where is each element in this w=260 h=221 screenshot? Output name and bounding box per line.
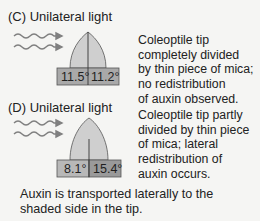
description-line: auxin occurs. (138, 167, 249, 182)
panel-c: (C) Unilateral light 11.5° 11.2° Coleopt… (0, 0, 260, 104)
panel-d-description: Coleoptile tip partly divided by thin pi… (138, 108, 249, 182)
summary-caption: Auxin is transported laterally to the sh… (20, 187, 213, 217)
description-line: no redistribution (138, 77, 254, 92)
description-line: completely divided (138, 48, 254, 63)
summary-line: shaded side in the tip. (20, 202, 213, 217)
description-line: of mica; lateral (138, 137, 249, 152)
block-left-value: 11.5° (61, 70, 89, 84)
description-line: Coleoptile tip partly (138, 108, 249, 123)
description-line: Coleoptile tip (138, 33, 254, 48)
description-line: redistribution of (138, 152, 249, 167)
description-line: divided by thin piece (138, 123, 249, 138)
light-rays-icon (14, 120, 62, 137)
block-right-value: 11.2° (91, 70, 119, 84)
description-line: by thin piece of mica; (138, 62, 254, 77)
block-left-value: 8.1° (64, 162, 86, 176)
block-right-value: 15.4° (93, 162, 122, 176)
summary-line: Auxin is transported laterally to the (20, 187, 213, 202)
light-rays-icon (14, 33, 62, 50)
